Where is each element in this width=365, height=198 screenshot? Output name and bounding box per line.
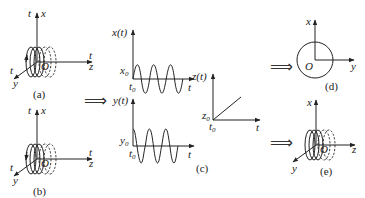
implies-arrow-to-e: ⟹	[270, 133, 293, 152]
xt-xlabel: t	[188, 81, 192, 93]
y-axis-label: y	[350, 60, 356, 72]
panel-d-circle-projection: x O y (d)	[297, 15, 356, 93]
z-axis-label: z	[88, 60, 94, 72]
y-axis-label: y	[291, 162, 297, 174]
panel-e-helix-diagram: x z y O (e)	[291, 96, 357, 178]
zt-xlabel: t	[256, 121, 260, 133]
implies-arrow-to-c: ⟹	[84, 91, 107, 110]
xt-t0-label: t0	[129, 80, 136, 94]
yt-t0-label: t0	[129, 147, 136, 161]
zt-ylabel: z(t)	[191, 70, 207, 83]
t-label-x: t	[28, 7, 32, 19]
yt-ylabel: y(t)	[112, 94, 129, 107]
origin-label: O	[305, 60, 313, 72]
x-axis-label: x	[40, 104, 46, 116]
caption-b: (b)	[33, 185, 46, 198]
y-axis-label: y	[12, 174, 18, 186]
caption-a: (a)	[33, 88, 46, 101]
caption-e: (e)	[320, 165, 333, 178]
diagram-canvas: t x t z t y O (a) t x t z t y O (b) ⟹	[0, 0, 365, 198]
x-axis-label: x	[306, 96, 312, 108]
panel-a-helix-diagram: t x t z t y O (a)	[10, 7, 94, 101]
yt-xlabel: t	[188, 148, 192, 160]
x-axis-label: x	[40, 7, 46, 19]
panel-c-yt-graph: y(t) y0 t0 t	[112, 94, 194, 163]
panel-c-xt-graph: x(t) x0 t0 t	[111, 26, 194, 94]
origin-label: O	[41, 60, 49, 72]
zt-linear-line	[213, 97, 241, 120]
x-axis-label: x	[305, 15, 311, 27]
t-label-x: t	[28, 104, 32, 116]
caption-c: (c)	[196, 162, 209, 175]
z-axis-label: z	[88, 157, 94, 169]
caption-d: (d)	[325, 80, 338, 93]
origin-label: O	[41, 157, 49, 169]
xt-ylabel: x(t)	[111, 26, 128, 39]
y-axis-label: y	[12, 77, 18, 89]
z-axis-label: z	[351, 143, 357, 155]
yt-y0-label: y0	[119, 134, 129, 148]
origin-label: O	[320, 143, 328, 155]
implies-arrow-to-d: ⟹	[270, 57, 293, 76]
t-label-y: t	[10, 64, 14, 76]
panel-c-zt-graph: z(t) z0 t0 t	[191, 70, 260, 134]
t-label-y: t	[10, 161, 14, 173]
zt-t0-label: t0	[209, 120, 216, 134]
xt-x0-label: x0	[119, 64, 129, 78]
panel-b-helix-diagram: t x t z t y O (b)	[10, 104, 94, 198]
